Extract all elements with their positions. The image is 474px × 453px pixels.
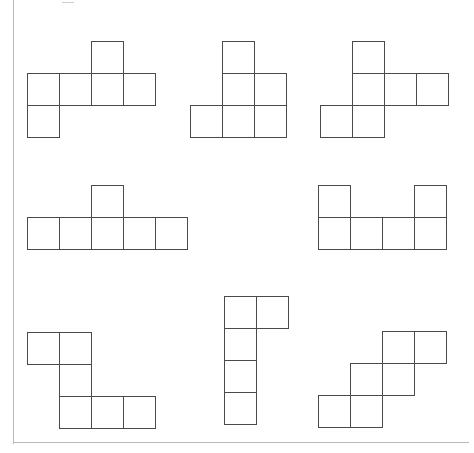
net-square [414, 185, 447, 218]
net-square [350, 363, 383, 396]
net-square [91, 41, 124, 74]
net-square [59, 73, 92, 106]
net-square [416, 73, 449, 106]
net-square [320, 105, 353, 138]
net-square [318, 395, 351, 428]
net-square [59, 396, 92, 429]
net-square [91, 396, 124, 429]
net-square [414, 217, 447, 250]
net-square [27, 217, 60, 250]
net-square [59, 332, 92, 365]
net-square [224, 296, 257, 329]
net-square [123, 217, 156, 250]
net-square [222, 73, 255, 106]
net-square [382, 217, 415, 250]
net-square [91, 217, 124, 250]
net-square [254, 105, 287, 138]
page-top-scan-mark [62, 2, 74, 3]
net-square [384, 73, 417, 106]
net-square [59, 364, 92, 397]
net-square [91, 185, 124, 218]
net-square [350, 217, 383, 250]
net-square [190, 105, 223, 138]
net-square [350, 395, 383, 428]
net-square [123, 73, 156, 106]
net-square [224, 392, 257, 425]
net-square [318, 217, 351, 250]
net-square [256, 296, 289, 329]
net-square [27, 105, 60, 138]
net-square [382, 331, 415, 364]
net-square [222, 105, 255, 138]
net-square [27, 73, 60, 106]
net-square [254, 73, 287, 106]
net-square [91, 73, 124, 106]
net-square [59, 217, 92, 250]
net-square [123, 396, 156, 429]
net-square [224, 328, 257, 361]
net-square [155, 217, 188, 250]
net-square [352, 41, 385, 74]
net-square [224, 360, 257, 393]
worksheet-page [0, 0, 474, 453]
net-square [382, 363, 415, 396]
net-square [222, 41, 255, 74]
net-square [352, 73, 385, 106]
net-square [352, 105, 385, 138]
net-square [27, 332, 60, 365]
net-square [414, 331, 447, 364]
net-square [318, 185, 351, 218]
page-left-edge-line [13, 0, 14, 444]
page-bottom-edge-line [13, 442, 469, 443]
